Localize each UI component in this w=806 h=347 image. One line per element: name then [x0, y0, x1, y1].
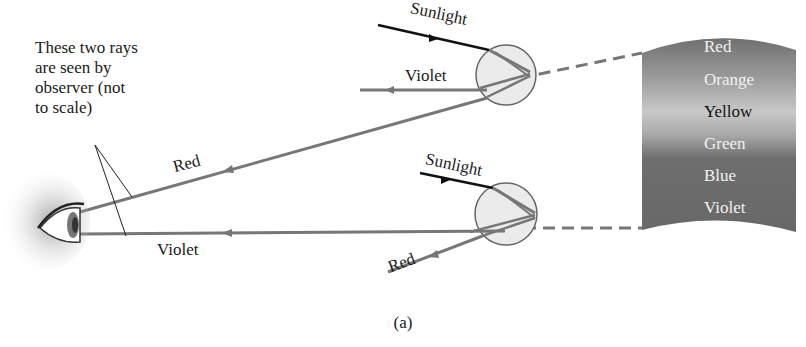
observer-eye-icon	[0, 174, 90, 270]
annotation-note: These two rays are seen by observer (not…	[35, 38, 138, 118]
band-label-green: Green	[704, 134, 746, 154]
annotation-pointer-lower	[95, 145, 126, 236]
band-label-red: Red	[704, 37, 731, 57]
figure-caption: (a)	[0, 313, 806, 333]
band-label-blue: Blue	[704, 166, 736, 186]
raindrop-bottom	[420, 173, 537, 245]
annotation-line: are seen by	[35, 58, 138, 78]
annotation-line: observer (not	[35, 78, 138, 98]
dashed-line-top	[520, 53, 642, 78]
band-label-orange: Orange	[704, 70, 754, 90]
band-label-yellow: Yellow	[704, 102, 752, 122]
raindrop-top	[378, 25, 536, 105]
annotation-pointer-upper	[95, 145, 132, 197]
ray-violet-to-observer	[80, 231, 505, 234]
annotation-line: to scale)	[35, 98, 138, 118]
band-label-violet: Violet	[704, 198, 745, 218]
annotation-line: These two rays	[35, 38, 138, 58]
label-violet-top: Violet	[405, 66, 446, 86]
label-violet-observer: Violet	[157, 240, 198, 260]
